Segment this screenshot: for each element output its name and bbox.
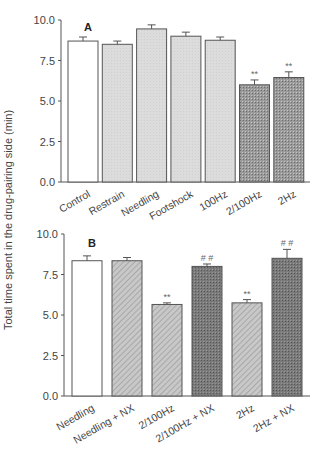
bar <box>232 303 262 396</box>
x-tick-label: Control <box>57 187 92 214</box>
bar <box>152 304 182 396</box>
chart-panel-a: 0.02.55.07.510.0AControlRestrainNeedling… <box>34 14 310 222</box>
x-tick-label: 2/100Hz <box>224 187 264 217</box>
bar <box>68 41 98 182</box>
significance-marker: # # <box>281 238 294 248</box>
panel-title: A <box>84 21 92 33</box>
y-tick-label: 2.5 <box>40 136 55 148</box>
significance-marker: ** <box>243 289 251 299</box>
y-tick-label: 7.5 <box>43 269 58 281</box>
bar <box>205 40 235 182</box>
x-tick-label: 2Hz <box>234 401 256 421</box>
significance-marker: ** <box>251 69 259 79</box>
y-tick-label: 10.0 <box>37 228 58 240</box>
significance-marker: ** <box>163 292 171 302</box>
y-tick-label: 5.0 <box>43 309 58 321</box>
significance-marker: # # <box>201 253 214 263</box>
bar <box>272 258 302 396</box>
bar-charts: 0.02.55.07.510.0AControlRestrainNeedling… <box>0 0 323 453</box>
panel-title: B <box>88 237 96 249</box>
bar <box>137 29 167 182</box>
bar <box>274 78 304 182</box>
bar <box>240 85 270 182</box>
y-tick-label: 2.5 <box>43 350 58 362</box>
significance-marker: ** <box>285 61 293 71</box>
bar <box>112 261 142 396</box>
y-tick-label: 7.5 <box>40 55 55 67</box>
y-tick-label: 5.0 <box>40 95 55 107</box>
y-tick-label: 10.0 <box>34 14 55 26</box>
bar <box>192 266 222 396</box>
x-tick-label: 2Hz + NX <box>251 401 296 434</box>
y-tick-label: 0.0 <box>40 176 55 188</box>
chart-panel-b: 0.02.55.07.510.0BNeedlingNeedling + NX**… <box>37 228 310 446</box>
x-tick-label: 2Hz <box>276 187 298 207</box>
bar <box>72 261 102 396</box>
bar <box>102 44 132 182</box>
y-tick-label: 0.0 <box>43 390 58 402</box>
bar <box>171 36 201 182</box>
